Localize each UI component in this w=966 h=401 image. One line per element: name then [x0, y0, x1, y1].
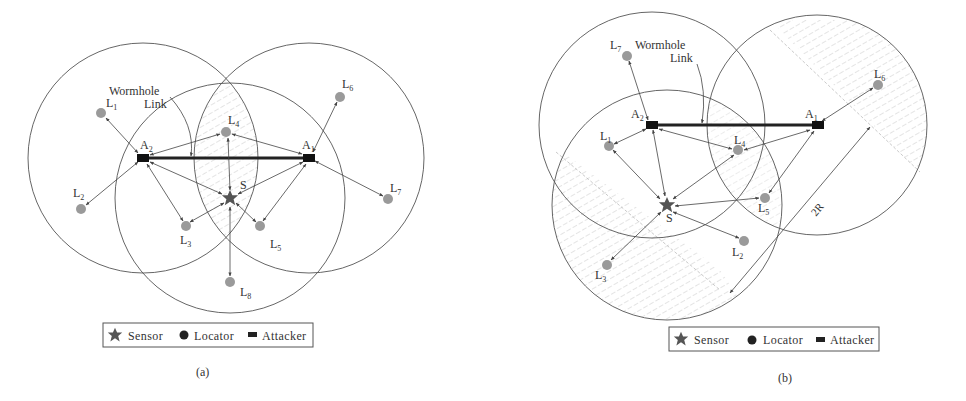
wormhole-label-line1: Wormhole: [109, 84, 159, 98]
attacker-a2: [137, 154, 149, 162]
wormhole-label-line1: Wormhole: [635, 38, 685, 52]
locator-l3: [181, 221, 191, 231]
svg-text:L1: L1: [600, 129, 611, 145]
legend-attacker-rect-icon: [816, 337, 825, 342]
distance-2r-label: 2R: [808, 200, 826, 218]
legend-attacker-label: Attacker: [830, 333, 875, 347]
locator-l3: [602, 260, 612, 270]
locator-l2: [739, 236, 749, 246]
legend-sensor-label: Sensor: [694, 333, 729, 347]
wormhole-pointer-arrow: [697, 64, 704, 123]
svg-text:A2: A2: [140, 138, 153, 154]
locator-l7: [383, 194, 393, 204]
attacker-a1: [303, 154, 315, 162]
locator-l5: [255, 221, 265, 231]
legend-b: Sensor Locator Attacker: [669, 327, 879, 351]
svg-text:L6: L6: [342, 77, 353, 93]
wormhole-pointer-arrow: [170, 97, 192, 156]
legend-locator-dot-icon: [748, 336, 757, 345]
svg-text:L5: L5: [270, 237, 281, 253]
svg-text:L7: L7: [610, 38, 621, 54]
wormhole-label-line2: Link: [670, 51, 693, 65]
locator-l8: [225, 277, 235, 287]
sensor-label-a: S: [240, 178, 247, 192]
legend-attacker-rect-icon: [248, 332, 257, 337]
locator-l2: [76, 204, 86, 214]
wormhole-label-line2: Link: [144, 97, 167, 111]
legend-a: Sensor Locator Attacker: [103, 323, 313, 347]
sensor-label-b: S: [666, 211, 673, 225]
panel-a: Wormhole Link L1 L2 L3 L4 L5 L6 L7 L8 A2…: [28, 43, 424, 379]
svg-text:L8: L8: [240, 285, 251, 301]
attacker-a2: [646, 121, 658, 129]
locator-l6: [335, 92, 345, 102]
legend-sensor-label: Sensor: [128, 329, 163, 343]
legend-locator-label: Locator: [194, 329, 234, 343]
legend-attacker-label: Attacker: [262, 329, 307, 343]
locator-l1: [96, 108, 106, 118]
svg-text:A1: A1: [805, 107, 818, 123]
locator-l4: [221, 127, 231, 137]
svg-text:L3: L3: [180, 233, 191, 249]
svg-text:L2: L2: [732, 245, 743, 261]
svg-text:A2: A2: [631, 107, 644, 123]
panel-b: Wormhole Link L1 L2 L3 L4 L5 L6 L7 A2 A1…: [539, 12, 960, 385]
wormhole-attack-figure: Wormhole Link L1 L2 L3 L4 L5 L6 L7 L8 A2…: [0, 0, 966, 401]
svg-text:A1: A1: [302, 138, 315, 154]
caption-a: (a): [196, 365, 209, 379]
svg-text:L7: L7: [390, 181, 401, 197]
legend-locator-label: Locator: [763, 333, 803, 347]
caption-b: (b): [778, 371, 792, 385]
svg-text:L2: L2: [73, 186, 84, 202]
sensor-star-icon: [659, 197, 675, 212]
locator-l7: [622, 51, 632, 61]
legend-locator-dot-icon: [180, 331, 189, 340]
svg-text:L1: L1: [106, 96, 117, 112]
hatched-region-a1: [770, 20, 960, 200]
